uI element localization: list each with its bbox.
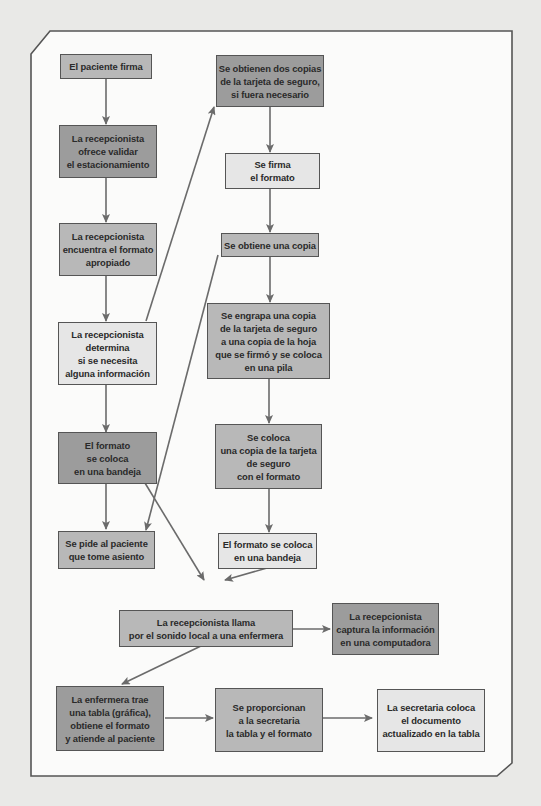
node-recepcionista-llama: La recepcionista llama por el sonido loc… (119, 610, 293, 647)
node-captura-informacion: La recepcionista captura la información … (332, 603, 439, 655)
node-formato-en-bandeja-left: El formato se coloca en una bandeja (58, 432, 157, 484)
node-encuentra-formato: La recepcionista encuentra el formato ap… (59, 223, 157, 276)
node-pide-tome-asiento: Se pide al paciente que tome asiento (58, 531, 155, 569)
node-determina-informacion: La recepcionista determina si se necesit… (58, 322, 157, 385)
node-se-firma-formato: Se firma el formato (225, 153, 320, 189)
node-secretaria-coloca: La secretaria coloca el documento actual… (377, 689, 485, 752)
node-proporcionan-secretaria: Se proporcionan a la secretaria la tabla… (215, 688, 323, 752)
node-enfermera-trae-tabla: La enfermera trae una tabla (gráfica), o… (56, 686, 164, 751)
node-obtiene-una-copia: Se obtiene una copia (221, 233, 319, 257)
node-coloca-copia-tarjeta: Se coloca una copia de la tarjeta de seg… (215, 424, 322, 489)
node-formato-en-bandeja-right: El formato se coloca en una bandeja (218, 533, 317, 569)
node-ofrece-validar: La recepcionista ofrece validar el estac… (59, 125, 157, 178)
node-el-paciente-firma: El paciente firma (60, 54, 152, 79)
node-obtienen-dos-copias: Se obtienen dos copias de la tarjeta de … (216, 55, 324, 107)
node-engrapa-copia: Se engrapa una copia de la tarjeta de se… (207, 303, 330, 379)
